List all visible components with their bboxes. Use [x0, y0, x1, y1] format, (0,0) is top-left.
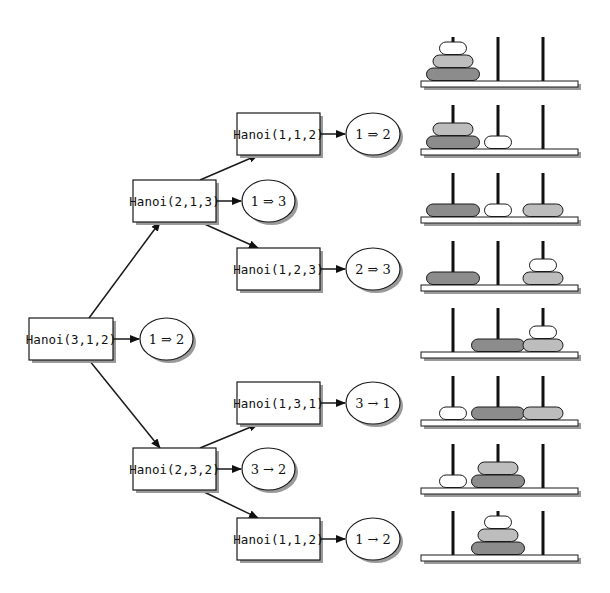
peg-3: [542, 444, 545, 488]
move-label: 3 → 2: [251, 462, 287, 477]
tower-state-8: [421, 511, 581, 564]
call-node: Hanoi(1,3,1)3 → 1: [233, 382, 403, 427]
disc-medium: [478, 462, 518, 475]
call-label: Hanoi(1,2,3): [233, 262, 323, 277]
move-label: 3 → 1: [355, 396, 391, 411]
peg-2: [497, 37, 500, 81]
diagram-canvas: Hanoi(3,1,2)1 ⇒ 2Hanoi(2,1,3)1 ⇒ 3Hanoi(…: [0, 0, 610, 593]
call-arrow: [200, 424, 258, 448]
tower-base: [421, 81, 578, 87]
disc-medium: [523, 339, 563, 352]
disc-small: [485, 204, 512, 217]
tower-state-7: [421, 444, 581, 497]
move-label: 1 ⇒ 2: [355, 127, 391, 142]
disc-medium: [523, 272, 563, 285]
disc-large: [427, 272, 480, 285]
call-label: Hanoi(2,3,2): [129, 462, 219, 477]
call-node: Hanoi(1,1,2)1 → 2: [233, 518, 403, 563]
disc-small: [440, 42, 467, 55]
tower-base: [421, 420, 578, 426]
tower-base: [421, 285, 578, 291]
tower-state-5: [421, 308, 581, 361]
tower-base: [421, 555, 578, 561]
move-label: 1 ⇒ 2: [149, 332, 185, 347]
tower-base: [421, 217, 578, 223]
disc-small: [440, 475, 467, 488]
move-label: 2 ⇒ 3: [355, 262, 391, 277]
call-label: Hanoi(2,1,3): [129, 194, 219, 209]
move-label: 1 → 2: [355, 532, 391, 547]
peg-3: [542, 105, 545, 149]
peg-3: [542, 37, 545, 81]
disc-large: [427, 204, 480, 217]
tower-state-6: [421, 376, 581, 429]
disc-large: [472, 475, 525, 488]
disc-medium: [523, 407, 563, 420]
call-arrow: [200, 490, 258, 518]
move-label: 1 ⇒ 3: [251, 194, 287, 209]
disc-small: [530, 326, 557, 339]
disc-large: [427, 68, 480, 81]
call-arrow: [89, 222, 160, 318]
call-node: Hanoi(1,1,2)1 ⇒ 2: [233, 113, 403, 158]
disc-medium: [433, 123, 473, 136]
peg-2: [497, 241, 500, 285]
disc-small: [485, 516, 512, 529]
tower-base: [421, 488, 578, 494]
call-label: Hanoi(1,1,2): [233, 127, 323, 142]
call-label: Hanoi(1,1,2): [233, 532, 323, 547]
tower-base: [421, 352, 578, 358]
disc-small: [530, 259, 557, 272]
call-arrow: [200, 222, 258, 248]
disc-large: [472, 339, 525, 352]
call-node: Hanoi(1,2,3)2 ⇒ 3: [233, 248, 403, 293]
tower-state-2: [421, 105, 581, 158]
peg-1: [452, 308, 455, 352]
tower-base: [421, 149, 578, 155]
call-arrow: [89, 360, 160, 448]
disc-small: [440, 407, 467, 420]
tower-states: [421, 37, 581, 564]
disc-small: [485, 136, 512, 149]
tower-state-1: [421, 37, 581, 90]
call-tree: Hanoi(3,1,2)1 ⇒ 2Hanoi(2,1,3)1 ⇒ 3Hanoi(…: [26, 113, 403, 563]
call-node: Hanoi(2,1,3)1 ⇒ 3: [129, 180, 298, 225]
disc-large: [472, 542, 525, 555]
disc-medium: [523, 204, 563, 217]
tower-state-3: [421, 173, 581, 226]
call-node: Hanoi(2,3,2)3 → 2: [129, 448, 298, 493]
call-label: Hanoi(3,1,2): [26, 332, 116, 347]
call-label: Hanoi(1,3,1): [233, 396, 323, 411]
disc-medium: [433, 55, 473, 68]
disc-large: [472, 407, 525, 420]
call-arrow: [200, 155, 258, 180]
tower-state-4: [421, 241, 581, 294]
call-node: Hanoi(3,1,2)1 ⇒ 2: [26, 318, 196, 363]
peg-1: [452, 511, 455, 555]
disc-large: [427, 136, 480, 149]
disc-medium: [478, 529, 518, 542]
hanoi-recursion-diagram: Hanoi(3,1,2)1 ⇒ 2Hanoi(2,1,3)1 ⇒ 3Hanoi(…: [0, 0, 610, 593]
peg-3: [542, 511, 545, 555]
